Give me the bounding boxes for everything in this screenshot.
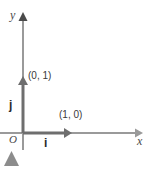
y-axis-label: y [10, 9, 15, 21]
j-vector-label: j [9, 99, 12, 111]
j-vector-arrowhead [18, 76, 28, 85]
x-axis-label: x [137, 135, 142, 147]
triangle-marker-icon [4, 151, 19, 166]
j-vector-coordinate-label: (0, 1) [28, 71, 51, 81]
origin-label: O [9, 134, 17, 145]
diagram-svg [0, 0, 150, 170]
y-axis-arrowhead [19, 12, 28, 21]
vector-diagram-figure: y x O j i (0, 1) (1, 0) [0, 0, 150, 170]
i-vector-coordinate-label: (1, 0) [59, 110, 82, 120]
i-vector-arrowhead [64, 128, 72, 138]
i-vector-label: i [44, 137, 47, 149]
